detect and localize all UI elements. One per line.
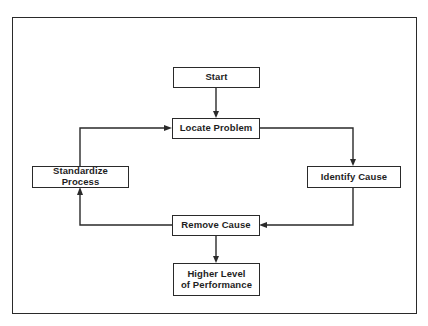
node-higher-level-of-performance: Higher Level of Performance: [173, 263, 260, 296]
node-start: Start: [173, 67, 260, 88]
arrowhead-icon: [213, 111, 219, 118]
arrowhead-icon: [213, 256, 219, 263]
edge-start-to-locate: [213, 88, 219, 118]
edge-standardize-to-locate: [80, 125, 172, 166]
arrowhead-icon: [350, 159, 356, 166]
arrowhead-icon: [77, 187, 83, 195]
node-remove-cause: Remove Cause: [172, 215, 260, 236]
arrowhead-icon: [164, 125, 172, 131]
edge-remove-to-higher: [213, 236, 219, 263]
edge-locate-to-identify: [260, 128, 356, 166]
node-locate-problem: Locate Problem: [172, 118, 260, 139]
flowchart-diagram: Start Locate Problem Identify Cause Remo…: [0, 0, 428, 326]
node-identify-cause: Identify Cause: [307, 166, 401, 188]
edge-remove-to-standardize: [77, 187, 172, 225]
edge-identify-to-remove: [259, 187, 353, 228]
node-standardize-process: Standardize Process: [32, 166, 129, 188]
arrowhead-icon: [259, 222, 267, 228]
